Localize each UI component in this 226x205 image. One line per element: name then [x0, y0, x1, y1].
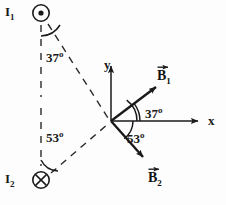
angle-label-b1: 37o — [145, 106, 163, 120]
current-i2-symbol — [33, 172, 49, 188]
vector-label-b1-sub: 1 — [166, 76, 171, 86]
current-i1-symbol — [33, 5, 49, 21]
current-label-i1: I1 — [5, 5, 15, 22]
current-label-i1-sub: 1 — [10, 12, 15, 22]
current-label-i2: I2 — [5, 172, 15, 189]
angle-label-b2-degree: o — [140, 130, 145, 140]
vector-label-b2-sub: 2 — [157, 178, 162, 188]
vector-arrow-b1-icon — [157, 64, 171, 70]
angle-label-b2-value: 53 — [127, 131, 140, 146]
angle-label-i1-value: 37 — [46, 50, 59, 65]
angle-label-i2: 53o — [46, 130, 64, 144]
vector-label-b1: B1 — [157, 64, 171, 86]
axis-label-x: x — [208, 114, 215, 127]
vector-arrow-b2-icon — [148, 166, 162, 172]
current-label-i2-sub: 2 — [10, 179, 15, 189]
vector-label-b2: B2 — [148, 166, 162, 188]
angle-label-i2-degree: o — [59, 129, 64, 139]
angle-label-i1-degree: o — [59, 49, 64, 59]
angle-label-i2-value: 53 — [46, 130, 59, 145]
dashed-line-i1-to-origin — [48, 24, 108, 118]
angle-label-b1-value: 37 — [145, 106, 158, 121]
angle-label-b1-degree: o — [158, 105, 163, 115]
angle-label-b2: 53o — [127, 131, 145, 145]
vector-label-b1-text: B — [157, 68, 166, 83]
vector-label-b2-text: B — [148, 170, 157, 185]
angle-label-i1: 37o — [46, 50, 64, 64]
physics-diagram: I1 I2 37o 53o 37o 53o y x B1 B2 — [0, 0, 226, 205]
axis-label-y: y — [104, 58, 111, 71]
diagram-canvas — [0, 0, 226, 205]
